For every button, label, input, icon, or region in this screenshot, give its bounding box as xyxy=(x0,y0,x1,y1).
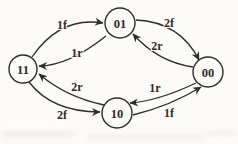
edge-10-to-11-label: 2r xyxy=(71,80,83,94)
edge-11-to-10-label: 2f xyxy=(57,108,68,122)
node-00-label: 00 xyxy=(202,66,215,80)
edge-00-to-10 xyxy=(130,83,196,103)
node-10-label: 10 xyxy=(111,107,124,121)
node-11: 11 xyxy=(9,55,37,83)
edge-01-to-11-label: 1r xyxy=(71,46,83,60)
edge-00-to-10-label: 1r xyxy=(149,81,161,95)
edge-11-to-01-label: 1f xyxy=(57,18,68,32)
edge-11-to-01 xyxy=(32,22,103,57)
node-10: 10 xyxy=(102,98,132,128)
edge-01-to-00-label: 2f xyxy=(164,16,175,30)
node-00: 00 xyxy=(193,57,223,87)
scan-artifact xyxy=(206,131,236,136)
node-group: 01 11 00 10 xyxy=(9,8,223,128)
node-01-label: 01 xyxy=(114,17,127,31)
node-11-label: 11 xyxy=(17,63,29,77)
edge-00-to-01-label: 2r xyxy=(151,39,163,53)
node-01: 01 xyxy=(105,8,135,38)
state-diagram-canvas: 1f 1r 2f 2r 2r 2f 1r 1f 01 11 00 xyxy=(0,0,238,144)
scan-artifact xyxy=(86,135,204,140)
edge-10-to-00-label: 1f xyxy=(164,106,175,120)
state-diagram: 1f 1r 2f 2r 2r 2f 1r 1f 01 11 00 xyxy=(0,0,238,144)
scan-artifact xyxy=(2,131,74,137)
